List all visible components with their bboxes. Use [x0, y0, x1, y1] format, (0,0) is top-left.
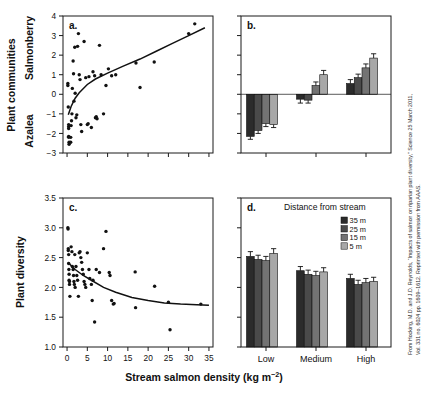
panel-d: LowMediumHighd.Distance from stream35 m2…	[237, 198, 378, 364]
figure-container: −3−2−101234a.b.1.01.52.02.53.03.50510152…	[0, 0, 427, 398]
panel-b-bar	[304, 94, 312, 100]
panel-c-data-point	[73, 286, 76, 289]
panel-a-data-point	[93, 74, 96, 77]
panel-c-data-point	[112, 302, 115, 305]
panel-d-bar	[247, 256, 255, 347]
panel-b-bar	[347, 84, 355, 95]
panel-c-data-point	[68, 280, 71, 283]
attribution-line-2: Vol. 331 no. 6024 pp. 1609–1612. Reprint…	[415, 184, 421, 355]
panel-a-ytick-label: −2	[47, 129, 57, 139]
panel-c-letter: c.	[69, 202, 78, 213]
panel-c-data-point	[108, 274, 111, 277]
panel-a-ytick-label: 1	[51, 70, 56, 80]
panel-c-data-point	[75, 274, 78, 277]
panel-c-xtick-label: 10	[103, 353, 113, 363]
panel-c-data-point	[168, 328, 171, 331]
panel-c-frame	[63, 198, 213, 347]
panel-a-data-point	[73, 92, 76, 95]
panel-a-data-point	[86, 122, 89, 125]
panel-c-data-point	[87, 268, 90, 271]
panel-c-data-point	[98, 271, 101, 274]
panel-c-data-point	[83, 283, 86, 286]
panel-a-data-point	[193, 22, 196, 25]
panel-d-bar	[304, 274, 312, 347]
panel-a-data-point	[66, 84, 69, 87]
panel-a-data-point	[71, 59, 74, 62]
panel-c-ytick-label: 1.0	[44, 342, 56, 352]
panel-c-ytick-label: 2.0	[44, 283, 56, 293]
panel-b-bar	[297, 94, 305, 99]
panel-b-bar	[362, 68, 370, 94]
panel-c-data-point	[67, 253, 70, 256]
panel-c-data-point	[102, 247, 105, 250]
panel-a-data-point	[80, 130, 83, 133]
panel-a-data-point	[90, 126, 93, 129]
panel-c: 1.01.52.02.53.03.505101520253035c.	[44, 193, 213, 363]
panel-b-bar	[247, 94, 255, 136]
panel-a-ytick-label: 2	[51, 50, 56, 60]
ylabel-salmonberry: Salmonberry	[23, 16, 35, 80]
panel-a-data-point	[67, 127, 70, 130]
panel-c-ytick-label: 2.5	[44, 253, 56, 263]
panel-c-data-point	[104, 230, 107, 233]
panel-a-data-point	[71, 87, 74, 90]
panel-a-data-point	[95, 117, 98, 120]
panel-d-bar	[362, 283, 370, 347]
legend-swatch	[341, 234, 347, 240]
x-axis-title-text: Stream salmon density (kg m−2)	[125, 370, 283, 384]
panel-c-data-point	[81, 268, 84, 271]
panel-a-ytick-label: 4	[51, 11, 56, 21]
panel-d-bar	[370, 281, 378, 347]
panel-c-xtick-label: 25	[164, 353, 174, 363]
panel-c-ytick-label: 1.5	[44, 312, 56, 322]
panel-c-data-point	[93, 320, 96, 323]
panel-c-data-point	[95, 268, 98, 271]
panel-c-data-point	[74, 265, 77, 268]
panel-a-data-point	[138, 86, 141, 89]
panel-a-data-point	[69, 141, 72, 144]
panel-c-xtick-label: 30	[184, 353, 194, 363]
panel-c-data-point	[72, 274, 75, 277]
panel-d-bar	[254, 259, 262, 347]
panel-b-bar	[312, 85, 320, 94]
panel-c-data-point	[153, 285, 156, 288]
panel-c-data-point	[70, 250, 73, 253]
panel-a-data-point	[91, 70, 94, 73]
panel-a: −3−2−101234a.	[47, 11, 209, 158]
ylabel-azalea: Azalea	[23, 114, 35, 147]
panel-c-xtick-label: 5	[85, 353, 90, 363]
panel-a-data-point	[77, 32, 80, 35]
panel-c-data-point	[78, 250, 81, 253]
panel-a-data-point	[78, 78, 81, 81]
panel-d-bar	[320, 272, 328, 347]
panel-b-bar	[320, 75, 328, 95]
panel-d-bar	[312, 275, 320, 347]
panel-c-xtick-label: 15	[123, 353, 133, 363]
panel-a-data-point	[75, 113, 78, 116]
panel-c-data-point	[66, 227, 69, 230]
panel-c-data-point	[67, 249, 70, 252]
panel-d-bar	[270, 253, 278, 347]
panel-a-data-point	[67, 105, 70, 108]
panel-c-data-point	[86, 251, 89, 254]
panel-c-data-point	[90, 283, 93, 286]
panel-d-bar	[297, 271, 305, 347]
panel-b: b.	[237, 16, 391, 157]
panel-a-data-point	[69, 136, 72, 139]
panel-a-data-point	[69, 124, 72, 127]
panel-a-data-point	[84, 76, 87, 79]
legend-label: 5 m	[350, 242, 362, 251]
panel-c-data-point	[68, 295, 71, 298]
panel-a-data-point	[107, 67, 110, 70]
panel-c-data-point	[110, 299, 113, 302]
panel-d-category-label: Low	[258, 354, 275, 364]
panel-a-data-point	[153, 60, 156, 63]
panel-c-ytick-label: 3.5	[44, 193, 56, 203]
panel-a-data-point	[104, 84, 107, 87]
attribution-line-1: From Hocking, M.D. and J.D. Reynolds, “I…	[407, 94, 413, 355]
ylabel-plant-communities: Plant communities	[5, 38, 17, 132]
panel-a-frame	[63, 16, 213, 153]
panel-a-data-point	[82, 40, 85, 43]
panel-d-letter: d.	[247, 202, 256, 213]
panel-c-data-point	[73, 253, 76, 256]
